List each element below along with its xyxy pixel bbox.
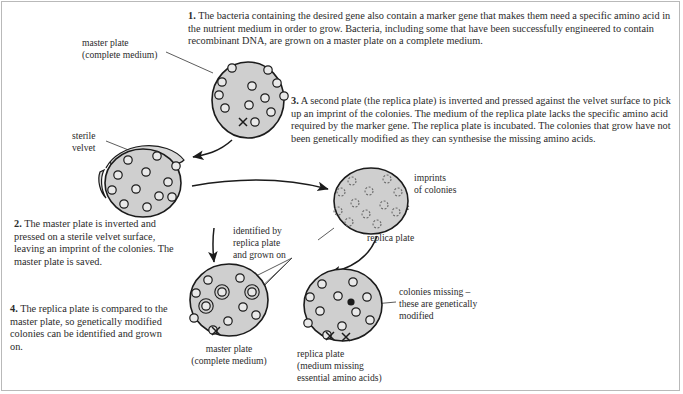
step-1: 1. The bacteria containing the desired g… <box>188 10 680 48</box>
label-replica-plate-bottom-line1: replica plate <box>297 348 382 360</box>
label-colonies-missing-line2: these are genetically <box>399 298 477 310</box>
step-1-text: The bacteria containing the desired gene… <box>188 10 670 46</box>
step-2-number: 2. <box>14 218 22 229</box>
label-imprints-line2: of colonies <box>414 184 456 196</box>
label-imprints-of-colonies: imprints of colonies <box>414 172 456 196</box>
label-sterile-velvet-line1: sterile <box>72 130 95 142</box>
step-3-text: A second plate (the replica plate) is in… <box>291 95 671 144</box>
label-colonies-missing-line3: modified <box>399 310 477 322</box>
step-3: 3. A second plate (the replica plate) is… <box>291 95 680 145</box>
step-3-number: 3. <box>291 95 299 106</box>
step-4: 4. The replica plate is compared to the … <box>10 303 168 353</box>
label-master-plate-bottom: master plate (complete medium) <box>163 343 295 367</box>
label-master-plate-top-line1: master plate <box>82 37 157 49</box>
label-replica-plate-bottom-line2: (medium missing <box>297 360 382 372</box>
figure-canvas: 1. The bacteria containing the desired g… <box>0 0 683 394</box>
label-master-plate-bottom-line2: (complete medium) <box>163 355 295 367</box>
label-identified-line1: identified by <box>233 225 286 237</box>
label-colonies-missing: colonies missing – these are genetically… <box>399 286 477 322</box>
label-identified-line2: replica plate <box>233 237 286 249</box>
label-identified-by-replica-plate: identified by replica plate and grown on <box>233 225 286 261</box>
label-master-plate-top-line2: (complete medium) <box>82 49 157 61</box>
step-4-number: 4. <box>10 303 18 314</box>
label-sterile-velvet-line2: velvet <box>72 142 95 154</box>
label-identified-line3: and grown on <box>233 249 286 261</box>
label-colonies-missing-line1: colonies missing – <box>399 286 477 298</box>
step-2: 2. The master plate is inverted and pres… <box>14 218 174 268</box>
label-master-plate-bottom-line1: master plate <box>163 343 295 355</box>
label-replica-plate-bottom-line3: essential amino acids) <box>297 372 382 384</box>
label-master-plate-top: master plate (complete medium) <box>82 37 157 61</box>
step-2-text: The master plate is inverted and pressed… <box>14 218 174 267</box>
label-sterile-velvet: sterile velvet <box>72 130 95 154</box>
step-4-text: The replica plate is compared to the mas… <box>10 303 168 352</box>
label-replica-plate-bottom: replica plate (medium missing essential … <box>297 348 382 384</box>
label-replica-plate-middle: replica plate <box>367 232 414 244</box>
label-imprints-line1: imprints <box>414 172 456 184</box>
step-1-number: 1. <box>188 10 196 21</box>
